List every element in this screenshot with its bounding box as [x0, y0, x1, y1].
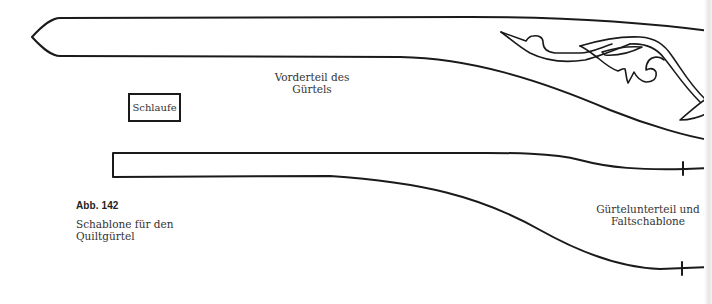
loop-label: Schlaufe	[132, 102, 176, 113]
front-belt-label-line1: Vorderteil des	[262, 71, 362, 83]
figure-caption-line1: Schablone für den	[76, 218, 174, 230]
pattern-diagram	[0, 0, 712, 304]
figure-number: Abb. 142	[76, 200, 118, 211]
page-gutter-shadow	[704, 0, 712, 304]
loop-piece: Schlaufe	[128, 93, 181, 122]
lower-belt-label-line2: Faltschablone	[588, 215, 708, 227]
front-belt-label-line2: Gürtels	[262, 83, 362, 95]
figure-caption: Schablone für den Quiltgürtel	[76, 218, 174, 242]
figure-caption-line2: Quiltgürtel	[76, 230, 174, 242]
lower-belt-label: Gürtelunterteil und Faltschablone	[588, 203, 708, 227]
lower-belt-label-line1: Gürtelunterteil und	[588, 203, 708, 215]
front-belt-label: Vorderteil des Gürtels	[262, 71, 362, 95]
